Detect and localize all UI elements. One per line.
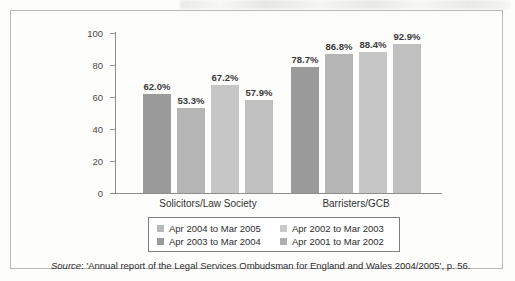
bar (143, 94, 171, 193)
scan-artifact (180, 0, 510, 9)
y-axis-tick: 100 (110, 33, 115, 34)
y-axis-tick-mark (110, 97, 115, 98)
bar-value-label: 53.3% (178, 95, 205, 106)
y-axis-tick: 80 (110, 65, 115, 66)
bar (177, 108, 205, 193)
y-axis-tick: 60 (110, 97, 115, 98)
y-axis-tick-mark (110, 65, 115, 66)
y-axis-tick-label: 20 (92, 156, 103, 167)
y-axis-tick-label: 80 (92, 60, 103, 71)
bar (393, 44, 421, 193)
source-note: Source: 'Annual report of the Legal Serv… (51, 260, 470, 271)
figure-frame: 020406080100 62.0%53.3%67.2%57.9%78.7%86… (10, 10, 503, 269)
bar (325, 54, 353, 193)
y-axis-tick-mark (110, 193, 115, 194)
y-axis-tick-label: 60 (92, 92, 103, 103)
legend-column-right: Apr 2002 to Mar 2003Apr 2001 to Mar 2002 (280, 222, 384, 248)
y-axis-tick-mark (110, 33, 115, 34)
legend-column-left: Apr 2004 to Mar 2005Apr 2003 to Mar 2004 (157, 222, 261, 248)
legend-item[interactable]: Apr 2001 to Mar 2002 (280, 235, 384, 248)
legend: Apr 2004 to Mar 2005Apr 2003 to Mar 2004… (148, 217, 400, 252)
legend-item[interactable]: Apr 2004 to Mar 2005 (157, 222, 261, 235)
plot-area: 62.0%53.3%67.2%57.9%78.7%86.8%88.4%92.9% (116, 33, 441, 193)
source-text: : 'Annual report of the Legal Services O… (81, 260, 470, 271)
source-label: Source (51, 260, 81, 271)
legend-swatch-icon (157, 238, 164, 245)
legend-item-label: Apr 2003 to Mar 2004 (169, 236, 261, 247)
bar-value-label: 92.9% (394, 31, 421, 42)
legend-swatch-icon (280, 238, 287, 245)
y-axis-tick-label: 100 (87, 28, 103, 39)
y-axis-tick: 20 (110, 161, 115, 162)
y-axis-tick-label: 40 (92, 124, 103, 135)
bar-value-label: 67.2% (212, 72, 239, 83)
legend-item[interactable]: Apr 2002 to Mar 2003 (280, 222, 384, 235)
x-axis-line (115, 193, 442, 194)
legend-item-label: Apr 2001 to Mar 2002 (292, 236, 384, 247)
y-axis-tick-mark (110, 129, 115, 130)
legend-swatch-icon (280, 225, 287, 232)
y-axis-tick: 40 (110, 129, 115, 130)
y-axis-tick-mark (110, 161, 115, 162)
bar (245, 100, 273, 193)
bar (211, 85, 239, 193)
bar-value-label: 86.8% (326, 41, 353, 52)
bar (359, 52, 387, 193)
legend-item-label: Apr 2002 to Mar 2003 (292, 223, 384, 234)
bar-value-label: 62.0% (144, 81, 171, 92)
bar-value-label: 78.7% (292, 54, 319, 65)
legend-swatch-icon (157, 225, 164, 232)
category-label: Barristers/GCB (322, 198, 389, 209)
y-axis-tick-label: 0 (98, 188, 103, 199)
legend-item-label: Apr 2004 to Mar 2005 (169, 223, 261, 234)
y-axis-tick: 0 (110, 193, 115, 194)
legend-item[interactable]: Apr 2003 to Mar 2004 (157, 235, 261, 248)
bar-value-label: 57.9% (246, 87, 273, 98)
bar-value-label: 88.4% (360, 39, 387, 50)
bar (291, 67, 319, 193)
category-label: Solicitors/Law Society (159, 198, 256, 209)
figure-container: 020406080100 62.0%53.3%67.2%57.9%78.7%86… (0, 0, 515, 281)
